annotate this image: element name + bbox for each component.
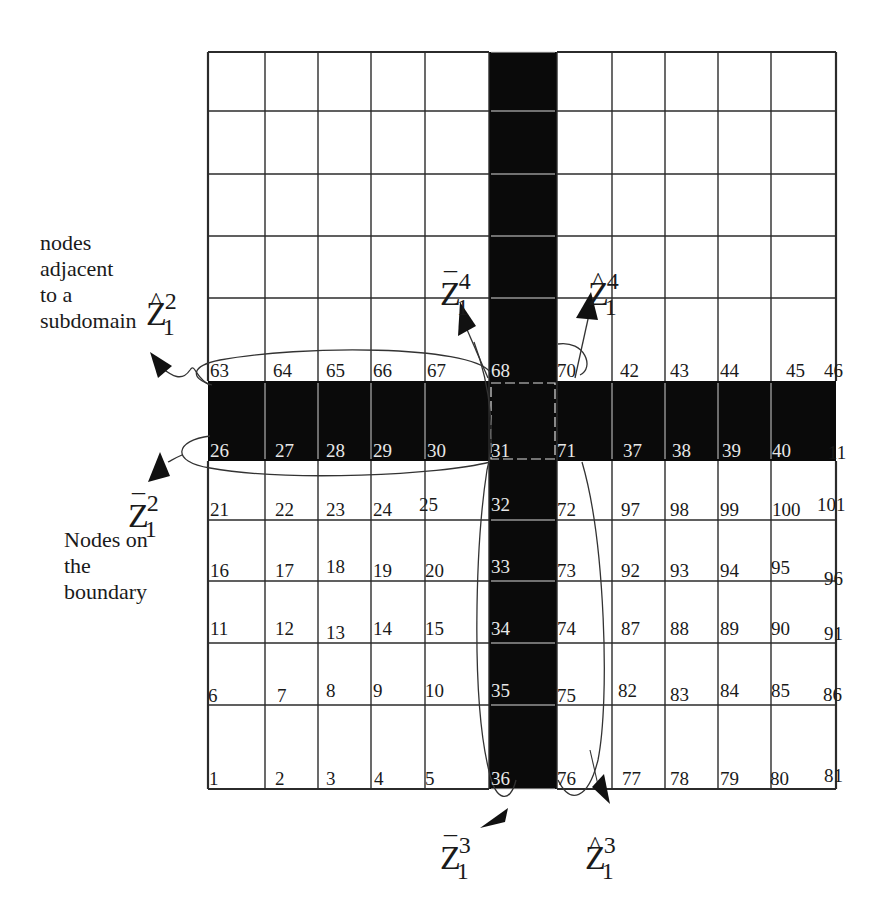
node-label: 88	[670, 618, 689, 639]
node-label: 65	[326, 360, 345, 381]
node-label: 77	[622, 768, 641, 789]
symbol-zhat-1-2: Z21	[146, 284, 175, 344]
node-label: 3	[326, 768, 336, 789]
boundary-label-line-3: boundary	[64, 579, 148, 605]
node-label: 27	[275, 440, 294, 461]
node-label: 21	[210, 499, 229, 520]
node-label: 40	[772, 440, 791, 461]
node-label: 5	[425, 768, 435, 789]
node-label: 35	[491, 680, 510, 701]
zbar-base: Z	[440, 841, 461, 875]
node-label: 74	[557, 618, 577, 639]
node-label: 2	[275, 768, 285, 789]
domain-decomposition-figure: 6364656667687042434445462627282930317137…	[0, 0, 889, 902]
node-label: 18	[326, 556, 345, 577]
node-label: 20	[425, 560, 444, 581]
adjacent-nodes-label: nodes adjacent to a subdomain	[40, 230, 137, 334]
node-label: 16	[210, 560, 229, 581]
node-label: 32	[491, 494, 510, 515]
symbol-zbar-1-4: Z41	[440, 264, 469, 324]
node-label: 8	[326, 680, 336, 701]
node-label: 96	[824, 568, 843, 589]
node-label: 43	[670, 360, 689, 381]
node-label: 29	[373, 440, 392, 461]
zbar-base: Z	[440, 277, 461, 311]
node-label: 24	[373, 499, 393, 520]
node-label: 76	[557, 768, 576, 789]
node-label: 90	[771, 618, 790, 639]
node-label: 11	[828, 442, 846, 463]
adjacent-label-line-2: adjacent	[40, 256, 137, 282]
node-label: 63	[210, 360, 229, 381]
node-label: 64	[273, 360, 293, 381]
zhat-base: Z	[585, 841, 606, 875]
node-label: 82	[618, 680, 637, 701]
node-label: 44	[720, 360, 740, 381]
symbol-zhat-1-3: Z31	[585, 828, 614, 888]
symbol-zhat-1-4: Z41	[588, 264, 617, 324]
node-label: 36	[491, 768, 510, 789]
node-label: 91	[824, 623, 843, 644]
node-label: 73	[557, 560, 576, 581]
node-label: 71	[557, 440, 576, 461]
node-label: 83	[670, 684, 689, 705]
node-label: 70	[557, 360, 576, 381]
node-label: 33	[491, 556, 510, 577]
node-label: 67	[427, 360, 446, 381]
node-label: 7	[277, 685, 287, 706]
node-label: 11	[210, 618, 228, 639]
node-grid: 6364656667687042434445462627282930317137…	[0, 0, 889, 902]
node-label: 92	[621, 560, 640, 581]
separator-horizontal	[208, 381, 836, 461]
node-label: 68	[491, 360, 510, 381]
node-label: 86	[823, 684, 842, 705]
node-label: 81	[824, 765, 843, 786]
separator-band	[208, 52, 836, 789]
node-label: 17	[275, 560, 294, 581]
node-label: 6	[208, 685, 218, 706]
node-label: 15	[425, 618, 444, 639]
leader-boundary	[168, 455, 182, 462]
boundary-label-line-2: the	[64, 553, 148, 579]
node-label: 30	[427, 440, 446, 461]
node-label: 87	[621, 618, 640, 639]
node-label: 72	[557, 499, 576, 520]
node-label: 39	[722, 440, 741, 461]
node-label: 100	[772, 499, 801, 520]
node-label: 22	[275, 499, 294, 520]
zbar-base: Z	[128, 499, 149, 533]
node-label: 1	[209, 768, 219, 789]
node-label: 28	[326, 440, 345, 461]
node-label: 12	[275, 618, 294, 639]
node-label: 78	[670, 768, 689, 789]
node-label: 4	[374, 768, 384, 789]
leader-adjacent	[162, 368, 210, 385]
node-label: 9	[373, 680, 383, 701]
node-label: 99	[720, 499, 739, 520]
node-label: 26	[210, 440, 229, 461]
node-label: 45	[786, 360, 805, 381]
node-label: 66	[373, 360, 392, 381]
arrowhead-boundary	[148, 452, 170, 482]
arrowhead-zbar-3	[480, 808, 508, 828]
adjacent-label-line-1: nodes	[40, 230, 137, 256]
node-label: 10	[425, 680, 444, 701]
node-label: 79	[720, 768, 739, 789]
node-label: 94	[720, 560, 740, 581]
node-label: 80	[770, 768, 789, 789]
node-label: 84	[720, 680, 740, 701]
node-label: 101	[817, 494, 846, 515]
node-label: 89	[720, 618, 739, 639]
adjacent-label-line-4: subdomain	[40, 308, 137, 334]
node-label: 93	[670, 560, 689, 581]
adjacent-label-line-3: to a	[40, 282, 137, 308]
symbol-zbar-1-3: Z31	[440, 828, 469, 888]
node-label: 23	[326, 499, 345, 520]
node-label: 25	[419, 494, 438, 515]
zhat-base: Z	[146, 297, 167, 331]
node-label: 13	[326, 622, 345, 643]
node-label: 19	[373, 560, 392, 581]
arrowhead-adjacent	[150, 352, 172, 378]
node-label: 37	[623, 440, 642, 461]
zhat-base: Z	[588, 277, 609, 311]
